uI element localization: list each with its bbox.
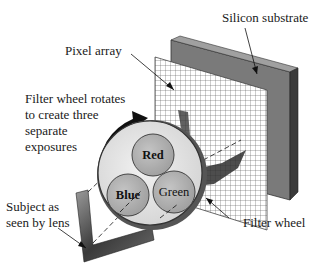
label-filter-wheel: Filter wheel [243, 215, 305, 231]
label-filter-wheel-rotates: Filter wheel rotates to create three sep… [25, 91, 125, 155]
svg-text:Blue: Blue [116, 188, 141, 202]
label-subject-as-seen-by-lens: Subject as seen by lens [6, 199, 70, 231]
label-line: Filter wheel rotates [25, 91, 125, 107]
label-pixel-array: Pixel array [65, 43, 122, 59]
label-line: exposures [25, 139, 125, 155]
label-line: separate [25, 123, 125, 139]
label-line: to create three [25, 107, 125, 123]
filter-blue: Blue [107, 174, 149, 216]
svg-text:Red: Red [142, 148, 164, 162]
label-line: seen by lens [6, 215, 70, 231]
image-sensor-diagram: Red Blue Green [0, 0, 317, 265]
label-line: Subject as [6, 199, 70, 215]
svg-text:Green: Green [159, 185, 190, 199]
label-silicon-substrate: Silicon substrate [222, 10, 308, 26]
filter-red: Red [132, 134, 174, 176]
